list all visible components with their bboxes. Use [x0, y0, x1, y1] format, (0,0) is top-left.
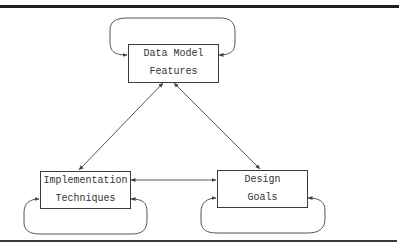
diagram-canvas: Data Model Features Implementation Techn…: [0, 0, 402, 251]
node-label-line-1: Data Model: [129, 45, 218, 63]
node-label-line-1: Implementation: [41, 172, 130, 190]
node-data-model-features: Data Model Features: [128, 44, 219, 83]
edges-layer: [0, 0, 402, 251]
edge-features-design: [174, 83, 260, 169]
edge-features-implementation: [79, 83, 163, 170]
node-label-line-2: Goals: [218, 189, 307, 207]
node-implementation-techniques: Implementation Techniques: [40, 171, 131, 209]
node-label-line-2: Features: [129, 63, 218, 81]
node-label-line-2: Techniques: [41, 190, 130, 208]
node-label-line-1: Design: [218, 171, 307, 189]
node-design-goals: Design Goals: [217, 170, 308, 208]
